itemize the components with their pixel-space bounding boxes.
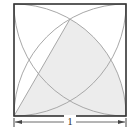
arrow-right-icon (118, 120, 125, 124)
arrow-left-icon (15, 120, 22, 124)
dimension-label: 1 (64, 115, 76, 127)
geometry-figure (0, 0, 135, 128)
